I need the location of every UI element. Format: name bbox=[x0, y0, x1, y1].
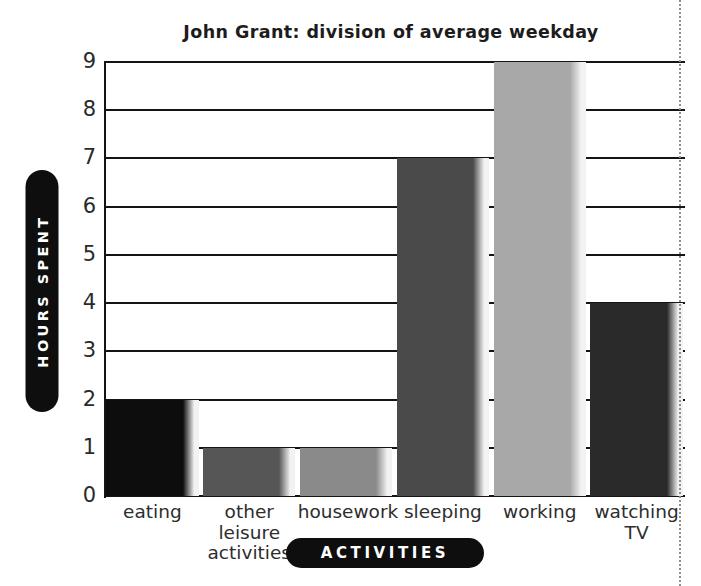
y-tick-label-3: 3 bbox=[62, 340, 96, 361]
x-tick-label: housework bbox=[298, 502, 395, 523]
bar-edge-highlight bbox=[279, 448, 295, 496]
bar bbox=[590, 303, 682, 496]
bar bbox=[300, 448, 392, 496]
x-axis-title-label: ACTIVITIES bbox=[286, 538, 484, 568]
x-tick-label: watching TV bbox=[588, 502, 685, 543]
gridline-5 bbox=[104, 254, 685, 256]
bar bbox=[203, 448, 295, 496]
gridline-6 bbox=[104, 206, 685, 208]
x-tick-label: sleeping bbox=[395, 502, 492, 523]
chart-title: John Grant: division of average weekday bbox=[96, 22, 686, 42]
y-tick-label-1: 1 bbox=[62, 437, 96, 458]
x-tick-label: other leisure activities bbox=[201, 502, 298, 564]
y-tick-label-5: 5 bbox=[62, 244, 96, 265]
gridline-7 bbox=[104, 157, 685, 159]
gridline-9 bbox=[104, 61, 685, 63]
bar-edge-highlight bbox=[183, 400, 199, 496]
y-tick-label-4: 4 bbox=[62, 292, 96, 313]
x-tick-label: working bbox=[491, 502, 588, 523]
bar bbox=[494, 62, 586, 496]
y-tick-label-7: 7 bbox=[62, 147, 96, 168]
bar-edge-highlight bbox=[376, 448, 392, 496]
y-tick-label-9: 9 bbox=[62, 51, 96, 72]
x-tick-label: eating bbox=[104, 502, 201, 523]
y-tick-label-0: 0 bbox=[62, 485, 96, 506]
gridline-8 bbox=[104, 109, 685, 111]
bar-chart-figure: John Grant: division of average weekday … bbox=[0, 0, 701, 586]
y-tick-label-2: 2 bbox=[62, 389, 96, 410]
y-axis-tick-labels: 0123456789 bbox=[52, 62, 96, 496]
bar bbox=[397, 158, 489, 496]
bar-edge-highlight bbox=[570, 62, 586, 496]
bar-edge-highlight bbox=[473, 158, 489, 496]
plot-area bbox=[104, 62, 685, 496]
page-edge-dotted-rule bbox=[679, 0, 681, 586]
bar bbox=[106, 400, 198, 496]
y-tick-label-8: 8 bbox=[62, 99, 96, 120]
y-tick-label-6: 6 bbox=[62, 196, 96, 217]
